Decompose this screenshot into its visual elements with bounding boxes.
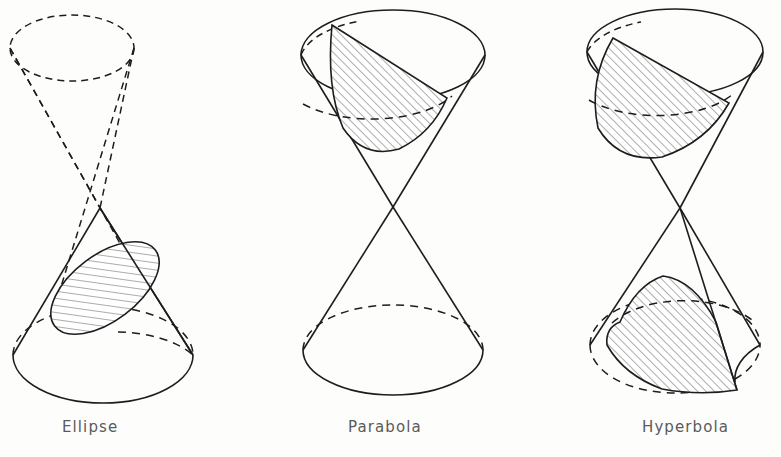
caption-ellipse: Ellipse: [62, 418, 118, 436]
hyperbola-upper-cut: [589, 38, 733, 158]
parabola-lower-nappe: [303, 207, 483, 395]
ellipse-upper-rim: [10, 15, 134, 81]
ellipse-base-back-arc-overdraw: [118, 332, 193, 355]
parabola-lower-slant-right: [393, 207, 483, 350]
ellipse-cut-section: [35, 224, 175, 353]
parabola-base-back-arc: [303, 305, 483, 350]
panel-ellipse: [10, 15, 193, 403]
parabola-cut-outline: [330, 25, 447, 151]
hyperbola-lower-cut: [607, 208, 752, 393]
parabola-lower-slant-left: [303, 207, 393, 350]
parabola-top-rim-back: [301, 10, 485, 55]
ellipse-upper-slant-right: [100, 48, 134, 208]
caption-parabola: Parabola: [348, 418, 422, 436]
ellipse-slant-extension-a: [10, 48, 126, 254]
hyperbola-lower-cut-outline: [607, 276, 737, 393]
ellipse-base-front-arc: [13, 355, 193, 403]
ellipse-cut-outline: [35, 224, 175, 353]
panel-parabola: [301, 10, 485, 395]
parabola-cut-section: [303, 25, 452, 151]
conic-sections-diagram: [0, 0, 781, 457]
hyperbola-upper-cut-outline: [595, 38, 729, 158]
caption-hyperbola: Hyperbola: [642, 418, 729, 436]
parabola-base-front-arc: [303, 350, 483, 395]
conic-sections-figure: Ellipse Parabola Hyperbola: [0, 0, 781, 457]
panel-hyperbola: [587, 9, 763, 393]
